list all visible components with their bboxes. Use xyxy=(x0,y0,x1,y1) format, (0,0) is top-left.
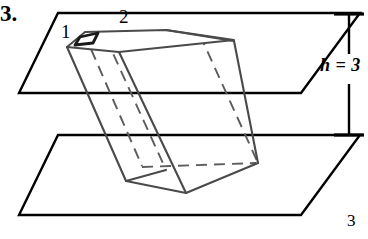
geometry-figure: 3. 1 2 h = 3 3 xyxy=(0,0,368,239)
figure-drawing xyxy=(0,0,368,239)
lower-plane xyxy=(19,135,360,215)
problem-number-label: 3. xyxy=(0,2,17,25)
hidden-base-edge xyxy=(142,163,256,167)
page-number-label: 3 xyxy=(347,212,356,229)
base-edge-front-right xyxy=(186,163,258,193)
base-edge-front-left xyxy=(126,181,186,193)
edge-label-two: 2 xyxy=(119,7,129,26)
base-edge-near xyxy=(126,170,166,181)
edge-label-one: 1 xyxy=(61,22,71,41)
height-label: h = 3 xyxy=(320,56,361,74)
